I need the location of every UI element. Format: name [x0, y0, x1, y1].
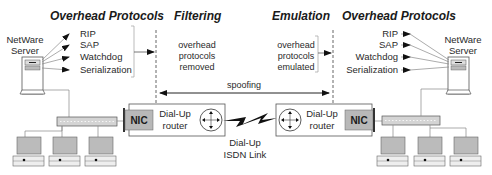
right-protocol-watchdog: Watchdog	[356, 51, 398, 62]
filtering-text-3: removed	[179, 62, 214, 72]
left-protocol-list: RIP SAP Watchdog Serialization	[80, 28, 132, 75]
emulation-text-2: protocols	[278, 51, 315, 61]
left-protocol-rip: RIP	[80, 28, 96, 39]
right-protocol-sap: SAP	[379, 39, 398, 50]
workstation-icon	[414, 137, 445, 166]
link-label-2: ISDN Link	[224, 149, 267, 160]
emulation-description: overhead protocols emulated	[277, 40, 315, 72]
left-protocol-lines	[42, 34, 69, 70]
isdn-spoofing-diagram: Overhead Protocols Filtering Emulation O…	[0, 0, 492, 175]
right-router-label-2: router	[310, 120, 335, 131]
right-lan-hub	[375, 89, 448, 125]
right-dial-up-router: Dial-Up router NIC	[276, 104, 374, 136]
workstation-icon	[85, 137, 116, 166]
workstation-icon	[377, 137, 408, 166]
filtering-title: Filtering	[174, 9, 222, 23]
workstation-icon	[49, 137, 80, 166]
right-router-label-1: Dial-Up	[306, 108, 338, 119]
left-overhead-protocols-title: Overhead Protocols	[50, 9, 164, 23]
left-netware-server: NetWare Server	[6, 34, 45, 94]
left-router-label-1: Dial-Up	[159, 108, 191, 119]
right-protocol-list: RIP SAP Watchdog Serialization	[346, 28, 398, 75]
left-protocol-serialization: Serialization	[80, 64, 132, 75]
left-protocol-watchdog: Watchdog	[80, 51, 122, 62]
left-dial-up-router: NIC Dial-Up router	[124, 104, 225, 136]
server-tower-icon	[20, 57, 45, 94]
left-protocol-sap: SAP	[80, 39, 99, 50]
emulation-text-1: overhead	[277, 40, 315, 50]
isdn-link-bolt-icon	[223, 113, 277, 127]
link-label-1: Dial-Up	[229, 137, 261, 148]
filtering-text-1: overhead	[178, 40, 216, 50]
right-protocol-serialization: Serialization	[346, 64, 398, 75]
spoofing-label: spoofing	[227, 80, 261, 90]
left-router-label-2: router	[163, 120, 188, 131]
left-workstations	[13, 126, 116, 166]
right-server-label-1: NetWare	[444, 34, 481, 45]
right-workstations	[377, 125, 481, 166]
workstation-icon	[13, 137, 44, 166]
router-icon	[279, 109, 301, 131]
right-protocol-lines	[401, 34, 449, 70]
right-netware-server: NetWare Server	[444, 34, 481, 94]
emulation-bracket	[315, 36, 318, 72]
left-nic-label: NIC	[130, 115, 147, 126]
emulation-title: Emulation	[272, 9, 330, 23]
filtering-text-2: protocols	[179, 51, 216, 61]
left-server-label-2: Server	[11, 45, 39, 56]
right-nic-label: NIC	[350, 115, 367, 126]
workstation-icon	[450, 137, 481, 166]
left-lan-hub	[43, 90, 124, 126]
filtering-description: overhead protocols removed	[178, 40, 216, 72]
router-icon	[200, 109, 222, 131]
left-server-label-1: NetWare	[6, 34, 43, 45]
server-tower-icon	[446, 57, 471, 94]
emulation-text-3: emulated	[277, 62, 314, 72]
right-server-label-2: Server	[449, 45, 477, 56]
right-protocol-rip: RIP	[382, 28, 398, 39]
right-overhead-protocols-title: Overhead Protocols	[342, 9, 456, 23]
